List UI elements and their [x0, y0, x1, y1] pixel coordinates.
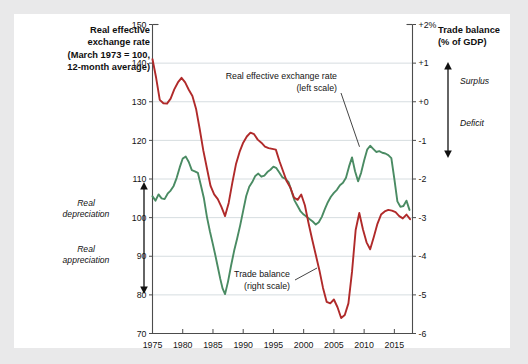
depreciation-appreciation-arrow-icon [138, 182, 150, 294]
label-real-depreciation-line-1: Real [38, 198, 134, 209]
left-axis-title-line-1: Real effective [20, 24, 150, 36]
label-deficit: Deficit [460, 118, 528, 128]
figure-card: Real effective exchange rate (March 1973… [14, 14, 510, 348]
label-real-depreciation: Real depreciation [38, 198, 134, 219]
left-axis-title-line-4: 12-month average) [20, 61, 150, 73]
right-axis-title: Trade balance (% of GDP) [438, 24, 528, 49]
right-axis-title-line-1: Trade balance [438, 24, 528, 36]
right-axis-title-line-2: (% of GDP) [438, 36, 528, 48]
left-axis-title-line-2: exchange rate [20, 36, 150, 48]
label-real-appreciation-line-1: Real [38, 244, 134, 255]
surplus-deficit-arrow-icon [442, 62, 454, 158]
left-direction-annotation: Real depreciation Real appreciation [28, 182, 152, 302]
label-surplus: Surplus [460, 76, 528, 86]
left-axis-title: Real effective exchange rate (March 1973… [20, 24, 150, 74]
label-real-appreciation: Real appreciation [38, 244, 134, 265]
label-real-appreciation-line-2: appreciation [38, 255, 134, 266]
left-axis-title-line-3: (March 1973 = 100, [20, 49, 150, 61]
label-real-depreciation-line-2: depreciation [38, 209, 134, 220]
right-direction-annotation: Surplus Deficit [438, 62, 528, 166]
